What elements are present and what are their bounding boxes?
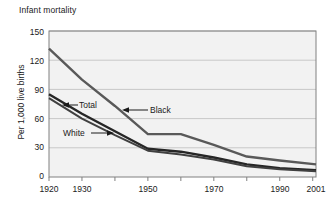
x-axis-ticks bbox=[49, 177, 313, 181]
infant-mortality-chart: Infant mortality Per 1,000 live births 1… bbox=[0, 0, 334, 204]
annotation-label-white: White bbox=[63, 129, 85, 138]
annotation-label-total: Total bbox=[79, 101, 97, 110]
annotation-label-black: Black bbox=[150, 106, 171, 115]
plot-area bbox=[0, 0, 334, 204]
